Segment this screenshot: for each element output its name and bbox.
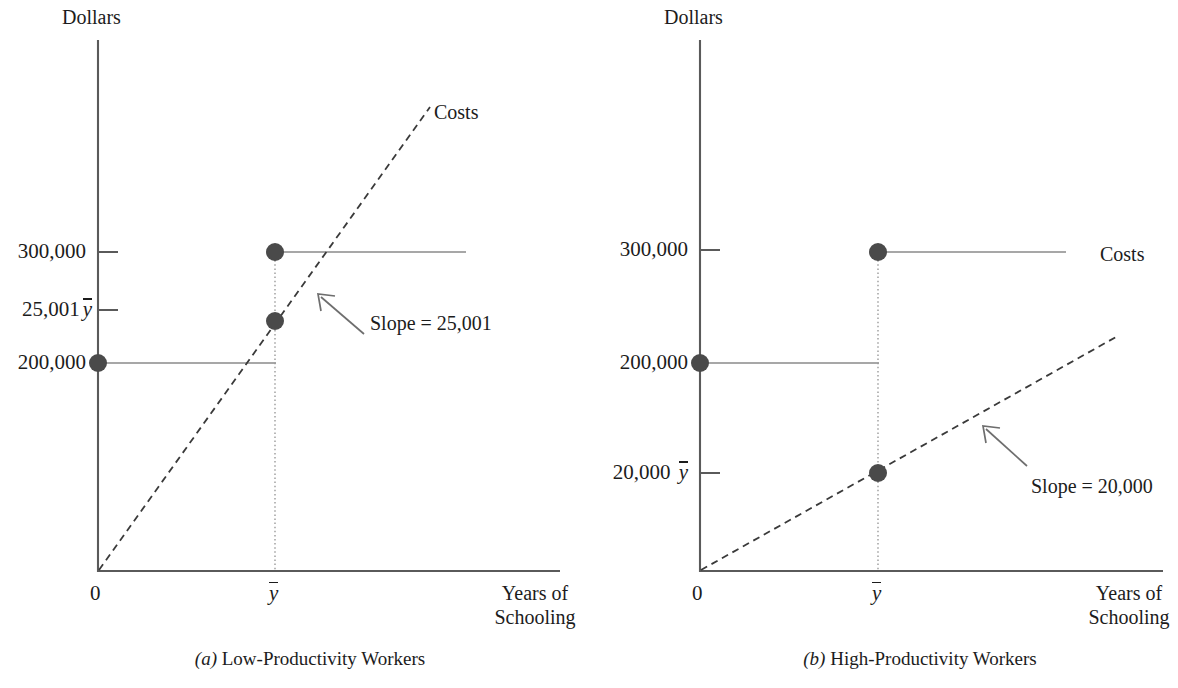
panel-b-tick-label-20000-ybar: 20,000 y <box>596 460 688 484</box>
panel-a-slope-label: Slope = 25,001 <box>370 312 492 335</box>
panel-b-reference-lines <box>700 252 1066 571</box>
panel-b-x-axis-title-line1: Years of <box>1096 582 1162 604</box>
panel-a-point-25001-ybar <box>266 312 284 330</box>
panel-b-slope-arrow <box>983 426 1027 466</box>
panel-b-point-200000-at-zero <box>691 354 709 372</box>
panel-b-arrow-shaft <box>986 429 1027 466</box>
panel-b-caption-text: High-Productivity Workers <box>830 648 1037 669</box>
panel-b-x-axis-title-line2: Schooling <box>1088 606 1169 628</box>
panel-a-y-axis-title: Dollars <box>62 6 121 29</box>
panel-b-tick-value-20000: 20,000 <box>613 460 671 484</box>
panel-a-point-200000-at-zero <box>89 354 107 372</box>
panel-b-origin-label: 0 <box>692 581 703 605</box>
panel-b-x-axis-title: Years ofSchooling <box>1080 581 1178 630</box>
panel-a-caption-key: (a) <box>195 648 217 669</box>
panel-b-costs-dashed-line <box>701 337 1116 570</box>
panel-a-x-tick-label-ybar: y <box>268 581 279 605</box>
panel-b-x-tick-label-ybar: y <box>871 581 882 605</box>
panel-a-x-axis-title: Years ofSchooling <box>480 581 590 630</box>
panel-a-arrow-shaft <box>321 297 364 334</box>
panel-b-slope-label: Slope = 20,000 <box>1031 475 1153 498</box>
panel-b-tick-label-200000: 200,000 <box>602 350 688 374</box>
panel-a-tick-ybar-symbol: y <box>80 297 92 321</box>
panel-b-point-300000-at-ybar <box>869 243 887 261</box>
panel-b-caption: (b) High-Productivity Workers <box>690 648 1150 670</box>
panel-b-costs-label: Costs <box>1100 243 1144 266</box>
panel-a-x-axis-title-line2: Schooling <box>494 606 575 628</box>
panel-a-costs-dashed-line <box>99 107 430 570</box>
panel-a-tick-label-200000: 200,000 <box>0 350 86 374</box>
panel-a-x-tick-ybar-symbol: y <box>268 581 279 605</box>
panel-a-tick-label-25001-ybar: 25,001y <box>0 297 92 321</box>
panel-a-reference-lines <box>98 252 466 571</box>
panel-a-tick-label-300000: 300,000 <box>0 239 86 263</box>
panel-b-caption-key: (b) <box>803 648 825 669</box>
panel-b-point-20000-ybar <box>869 464 887 482</box>
panel-b-x-tick-ybar-symbol: y <box>871 581 882 605</box>
panel-a-caption: (a) Low-Productivity Workers <box>100 648 520 670</box>
panel-a-point-300000-at-ybar <box>266 243 284 261</box>
panel-a-origin-label: 0 <box>90 581 101 605</box>
panel-a-costs-label: Costs <box>434 101 478 124</box>
panel-b-tick-ybar-symbol: y <box>676 460 688 484</box>
panel-a-slope-arrow <box>318 294 364 334</box>
panel-b-tick-label-300000: 300,000 <box>602 237 688 261</box>
panel-a-x-axis-title-line1: Years of <box>502 582 568 604</box>
panel-a-costs-curve <box>99 107 430 570</box>
panel-a-tick-value-25001: 25,001 <box>22 297 80 321</box>
panel-a-caption-text: Low-Productivity Workers <box>222 648 425 669</box>
signaling-figure: Dollars 300,000 25,001y 200,000 Costs Sl… <box>0 0 1178 688</box>
panel-a-axes <box>97 40 560 572</box>
panel-b-costs-curve <box>701 337 1116 570</box>
panel-b-y-axis-title: Dollars <box>664 6 723 29</box>
